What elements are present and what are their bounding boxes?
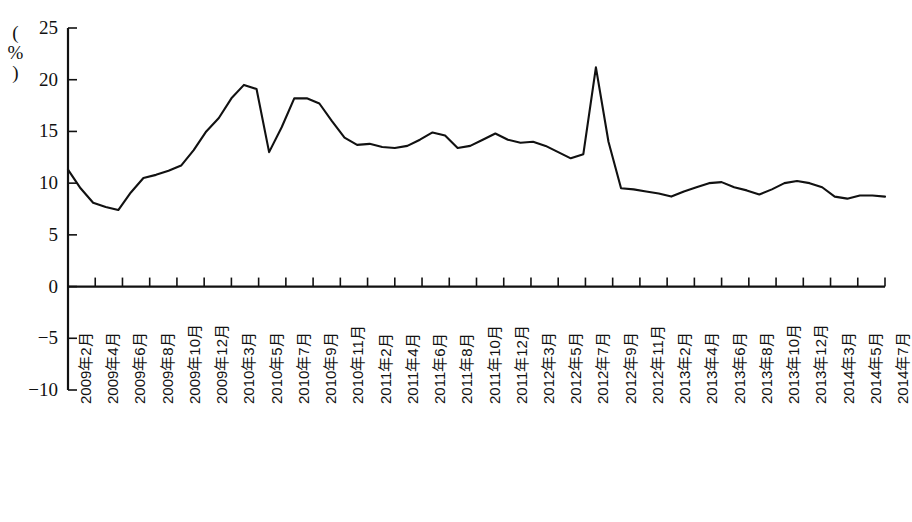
y-tick-label: 15 xyxy=(39,120,58,141)
y-tick-label: −5 xyxy=(38,327,58,348)
y-tick-label: 20 xyxy=(39,69,58,90)
y-tick-label: −10 xyxy=(28,379,58,400)
y-tick-label: 5 xyxy=(49,224,59,245)
y-tick-label: 10 xyxy=(39,172,58,193)
data-series-line xyxy=(68,67,885,210)
x-axis-ticks xyxy=(68,278,885,287)
y-tick-label: 0 xyxy=(49,276,59,297)
y-axis-ticks: 2520151050−5−10 xyxy=(28,17,77,400)
y-tick-label: 25 xyxy=(39,17,58,38)
y-axis-unit-label: (%) xyxy=(6,22,25,82)
